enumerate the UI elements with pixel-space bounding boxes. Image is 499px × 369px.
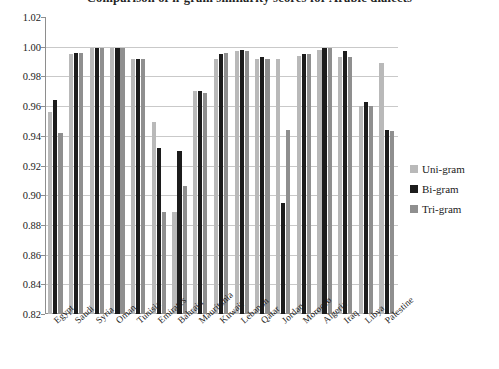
bar-group <box>90 17 104 314</box>
legend-label: Bi-gram <box>422 183 459 195</box>
legend-item: Tri-gram <box>410 200 496 218</box>
chart-figure: Comparison of n-gram similarity scores f… <box>0 0 499 369</box>
legend-item: Uni-gram <box>410 160 496 178</box>
bar-uni-gram <box>235 51 239 314</box>
y-axis-tick-label: 0.90 <box>0 190 41 201</box>
bar-tri-gram <box>348 57 352 314</box>
y-axis-tick-label: 0.96 <box>0 101 41 112</box>
chart-legend: Uni-gramBi-gramTri-gram <box>410 160 496 220</box>
bar-bi-gram <box>177 151 181 314</box>
y-axis-tick-mark <box>41 314 45 315</box>
y-axis-tick-label: 1.00 <box>0 41 41 52</box>
legend-item: Bi-gram <box>410 180 496 198</box>
plot-area <box>45 17 397 314</box>
bar-tri-gram <box>58 133 62 314</box>
y-axis-tick-label: 0.86 <box>0 249 41 260</box>
legend-swatch-icon <box>410 165 418 173</box>
y-axis-tick-label: 0.88 <box>0 219 41 230</box>
bar-tri-gram <box>203 93 207 314</box>
y-axis-tick-label: 0.84 <box>0 279 41 290</box>
bar-group <box>172 17 186 314</box>
bar-uni-gram <box>317 50 321 314</box>
y-axis-tick-label: 0.92 <box>0 160 41 171</box>
bar-group <box>255 17 269 314</box>
bar-uni-gram <box>69 54 73 314</box>
legend-swatch-icon <box>410 205 418 213</box>
bar-tri-gram <box>162 212 166 314</box>
bar-uni-gram <box>359 106 363 314</box>
bar-uni-gram <box>131 59 135 314</box>
bar-bi-gram <box>74 53 78 314</box>
bar-group <box>110 17 124 314</box>
bar-bi-gram <box>364 102 368 314</box>
bar-tri-gram <box>390 131 394 314</box>
bar-tri-gram <box>79 53 83 314</box>
bar-uni-gram <box>48 112 52 314</box>
bar-group <box>359 17 373 314</box>
bar-group <box>338 17 352 314</box>
bar-group <box>276 17 290 314</box>
bar-uni-gram <box>379 63 383 314</box>
bar-bi-gram <box>136 59 140 314</box>
bar-uni-gram <box>338 57 342 314</box>
bar-group <box>131 17 145 314</box>
bar-bi-gram <box>302 54 306 314</box>
bar-bi-gram <box>260 57 264 314</box>
y-axis-tick-label: 0.82 <box>0 309 41 320</box>
bar-uni-gram <box>214 59 218 314</box>
bar-tri-gram <box>369 106 373 314</box>
bar-uni-gram <box>193 91 197 314</box>
legend-label: Uni-gram <box>422 163 465 175</box>
legend-swatch-icon <box>410 185 418 193</box>
bar-group <box>214 17 228 314</box>
bar-tri-gram <box>245 51 249 314</box>
bar-group <box>379 17 393 314</box>
bar-group <box>48 17 62 314</box>
bar-tri-gram <box>141 59 145 314</box>
bar-tri-gram <box>120 48 124 314</box>
bar-uni-gram <box>110 48 114 314</box>
bar-bi-gram <box>95 48 99 314</box>
bar-uni-gram <box>90 48 94 314</box>
bar-bi-gram <box>385 130 389 314</box>
bar-tri-gram <box>100 48 104 314</box>
bar-tri-gram <box>224 53 228 314</box>
bar-tri-gram <box>328 48 332 314</box>
bar-bi-gram <box>53 100 57 314</box>
bar-uni-gram <box>276 59 280 314</box>
bar-tri-gram <box>183 186 187 314</box>
bar-group <box>317 17 331 314</box>
y-axis-tick-label: 0.94 <box>0 130 41 141</box>
bar-bi-gram <box>219 54 223 314</box>
bar-bi-gram <box>343 51 347 314</box>
bar-group <box>297 17 311 314</box>
bar-bi-gram <box>115 48 119 314</box>
bar-bi-gram <box>157 148 161 314</box>
bar-group <box>193 17 207 314</box>
bar-tri-gram <box>286 130 290 314</box>
bar-bi-gram <box>240 50 244 314</box>
legend-label: Tri-gram <box>422 203 461 215</box>
bar-bi-gram <box>281 203 285 314</box>
bar-group <box>235 17 249 314</box>
bar-bi-gram <box>198 91 202 314</box>
bar-uni-gram <box>297 56 301 314</box>
bar-group <box>69 17 83 314</box>
bar-uni-gram <box>255 59 259 314</box>
bar-bi-gram <box>322 48 326 314</box>
bar-tri-gram <box>265 59 269 314</box>
bar-uni-gram <box>152 122 156 314</box>
bar-tri-gram <box>307 54 311 314</box>
y-axis-tick-label: 1.02 <box>0 12 41 23</box>
bar-group <box>152 17 166 314</box>
chart-title: Comparison of n-gram similarity scores f… <box>0 0 499 6</box>
y-axis-tick-label: 0.98 <box>0 71 41 82</box>
